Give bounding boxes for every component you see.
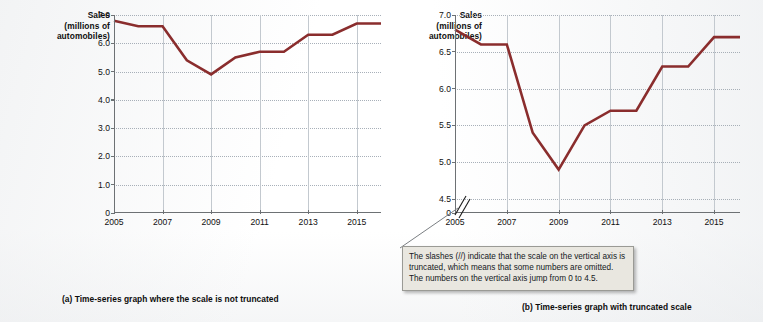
x-axis-tick-label: 2013 bbox=[299, 217, 318, 227]
panel-a-y-axis-title: Sales (millions of automobiles) bbox=[20, 10, 110, 42]
x-axis-tick-label: 2005 bbox=[445, 217, 464, 227]
truncated-scale-callout-text: The slashes (//) indicate that the scale… bbox=[409, 252, 625, 283]
y-axis-tick-label: 6.0 bbox=[439, 84, 455, 94]
panel-a-x-axis-line bbox=[114, 212, 381, 213]
y-axis-tick-label: 3.0 bbox=[98, 123, 114, 133]
sales-line-series bbox=[114, 15, 381, 213]
x-axis-tick-label: 2015 bbox=[347, 217, 366, 227]
panel-b-caption: (b) Time-series graph with truncated sca… bbox=[522, 302, 692, 312]
sales-line-path bbox=[455, 30, 740, 170]
sales-line-series bbox=[455, 15, 740, 213]
panel-a-y-axis-title-line-1: Sales bbox=[20, 10, 110, 21]
x-axis-tick-label: 2005 bbox=[104, 217, 123, 227]
x-axis-tick-label: 2009 bbox=[549, 217, 568, 227]
x-axis-tick-label: 2011 bbox=[250, 217, 268, 227]
sales-line-path bbox=[114, 21, 381, 75]
figure-panel-b: Sales (millions of automobiles) 7.06.56.… bbox=[390, 0, 763, 322]
panel-a-plot-area: 7.06.05.04.03.02.01.00200520072009201120… bbox=[114, 15, 381, 213]
x-axis-tick-label: 2009 bbox=[202, 217, 221, 227]
panel-a-y-axis-line bbox=[114, 15, 115, 213]
y-axis-tick-label: 5.5 bbox=[439, 120, 455, 130]
panel-a-y-axis-title-line-3: automobiles) bbox=[20, 31, 110, 42]
figure-panel-a: Sales (millions of automobiles) 7.06.05.… bbox=[0, 0, 390, 322]
y-axis-tick-label: 4.5 bbox=[439, 194, 455, 204]
y-axis-tick-label: 5.0 bbox=[98, 67, 114, 77]
y-axis-tick-label: 7.0 bbox=[98, 10, 114, 20]
panel-b-y-axis-line bbox=[455, 15, 456, 213]
panel-b-x-axis-line bbox=[455, 212, 740, 213]
y-axis-tick-label: 5.0 bbox=[439, 157, 455, 167]
y-axis-tick-label: 1.0 bbox=[98, 180, 114, 190]
y-axis-tick-label: 6.0 bbox=[98, 38, 114, 48]
x-axis-tick-label: 2007 bbox=[153, 217, 172, 227]
x-axis-tick-label: 2007 bbox=[497, 217, 516, 227]
panel-a-caption: (a) Time-series graph where the scale is… bbox=[62, 294, 279, 304]
y-axis-tick-label: 4.0 bbox=[98, 95, 114, 105]
truncated-scale-callout: The slashes (//) indicate that the scale… bbox=[402, 246, 634, 291]
panel-b-plot-area: 7.06.56.05.55.04.50200520072009201120132… bbox=[455, 15, 740, 213]
y-axis-tick-label: 6.5 bbox=[439, 47, 455, 57]
x-axis-tick-label: 2015 bbox=[705, 217, 724, 227]
x-axis-tick-label: 2013 bbox=[653, 217, 672, 227]
panel-a-y-axis-title-line-2: (millions of bbox=[20, 21, 110, 32]
y-axis-tick-label: 2.0 bbox=[98, 151, 114, 161]
x-axis-tick-label: 2011 bbox=[601, 217, 619, 227]
y-axis-tick-label: 7.0 bbox=[439, 10, 455, 20]
